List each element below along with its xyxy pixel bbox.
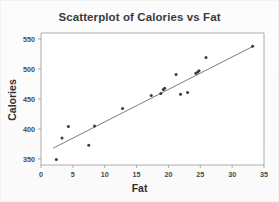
data-point bbox=[159, 92, 162, 95]
x-tick-label: 35 bbox=[260, 170, 268, 179]
data-point bbox=[121, 107, 124, 110]
data-point bbox=[163, 87, 166, 90]
y-tick-label: 350 bbox=[23, 155, 35, 164]
data-point bbox=[67, 125, 70, 128]
x-tick-label: 30 bbox=[228, 170, 236, 179]
y-tick-label: 400 bbox=[23, 125, 35, 134]
data-point bbox=[87, 144, 90, 147]
x-tick-label: 10 bbox=[101, 170, 109, 179]
data-point bbox=[179, 93, 182, 96]
y-axis-ticks: 350400450500550 bbox=[23, 35, 41, 164]
x-tick-label: 15 bbox=[133, 170, 141, 179]
x-tick-label: 0 bbox=[39, 170, 43, 179]
y-tick-label: 450 bbox=[23, 95, 35, 104]
x-tick-label: 25 bbox=[196, 170, 204, 179]
x-tick-label: 5 bbox=[71, 170, 75, 179]
x-axis-label: Fat bbox=[0, 182, 279, 194]
data-point bbox=[93, 125, 96, 128]
data-point bbox=[251, 45, 254, 48]
data-point bbox=[61, 137, 64, 140]
plot-canvas: 350400450500550 05101520253035 bbox=[0, 0, 279, 202]
data-point bbox=[150, 94, 153, 97]
plot-background bbox=[41, 33, 264, 165]
y-axis-label: Calories bbox=[6, 65, 18, 135]
x-tick-label: 20 bbox=[164, 170, 172, 179]
data-point bbox=[55, 158, 58, 161]
y-tick-label: 500 bbox=[23, 65, 35, 74]
data-point bbox=[205, 56, 208, 59]
data-point bbox=[175, 73, 178, 76]
x-axis-ticks: 05101520253035 bbox=[39, 165, 268, 179]
data-point bbox=[198, 69, 201, 72]
data-point bbox=[186, 91, 189, 94]
y-tick-label: 550 bbox=[23, 35, 35, 44]
scatterplot-chart: Scatterplot of Calories vs Fat 350400450… bbox=[0, 0, 279, 202]
